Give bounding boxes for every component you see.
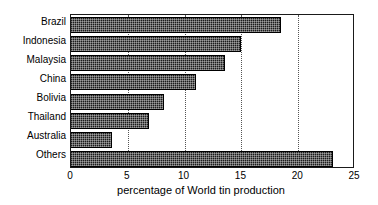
y-axis-label-indonesia: Indonesia (0, 36, 66, 46)
bar-brazil (71, 17, 281, 33)
bar-series (71, 15, 353, 167)
y-axis-category-labels: Brazil Indonesia Malaysia China Bolivia … (0, 14, 66, 168)
x-tick-15: 15 (227, 170, 253, 182)
plot-area (70, 14, 354, 168)
y-axis-label-australia: Australia (0, 131, 66, 141)
bar-australia (71, 132, 112, 148)
x-tick-25: 25 (341, 170, 367, 182)
y-axis-label-malaysia: Malaysia (0, 55, 66, 65)
x-axis-title: percentage of World tin production (0, 184, 378, 197)
bar-row (71, 132, 353, 148)
x-tick-20: 20 (284, 170, 310, 182)
y-axis-label-others: Others (0, 150, 66, 160)
bar-row (71, 17, 353, 33)
y-axis-label-bolivia: Bolivia (0, 93, 66, 103)
y-axis-label-brazil: Brazil (0, 17, 66, 27)
bar-china (71, 74, 196, 90)
bar-bolivia (71, 94, 164, 110)
x-axis-tick-labels: 0510152025 (0, 170, 378, 184)
x-tick-10: 10 (171, 170, 197, 182)
bar-malaysia (71, 55, 225, 71)
y-axis-label-thailand: Thailand (0, 112, 66, 122)
bar-indonesia (71, 36, 241, 52)
bar-row (71, 55, 353, 71)
bar-row (71, 94, 353, 110)
bar-chart: Brazil Indonesia Malaysia China Bolivia … (0, 0, 378, 205)
bar-thailand (71, 113, 149, 129)
bar-others (71, 151, 333, 167)
x-tick-0: 0 (57, 170, 83, 182)
y-axis-label-china: China (0, 74, 66, 84)
x-tick-5: 5 (114, 170, 140, 182)
bar-row (71, 113, 353, 129)
bar-row (71, 74, 353, 90)
bar-row (71, 36, 353, 52)
bar-row (71, 151, 353, 167)
